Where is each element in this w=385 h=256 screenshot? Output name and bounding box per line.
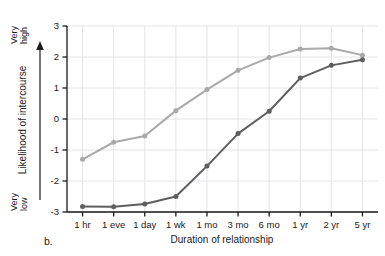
data-point-marker	[204, 164, 209, 169]
data-point-marker	[329, 46, 334, 51]
x-category-label: 1 yr	[292, 219, 308, 230]
x-category-label: 1 wk	[166, 219, 186, 230]
y-tick-label: 2	[54, 51, 59, 62]
y-axis-high-anchor-line1: Very	[9, 25, 19, 44]
y-axis-high-anchor-line2: high	[19, 27, 29, 44]
data-point-marker	[204, 87, 209, 92]
x-category-label: 1 mo	[196, 219, 217, 230]
data-point-marker	[80, 157, 85, 162]
data-point-marker	[173, 108, 178, 113]
data-point-marker	[267, 109, 272, 114]
y-tick-label: -2	[51, 175, 59, 186]
chart-container: 3210-1-2-3 1 hr1 eve1 day1 wk1 mo3 mo6 m…	[0, 0, 385, 256]
panel-label: b.	[44, 235, 53, 247]
x-category-label: 3 mo	[227, 219, 248, 230]
x-category-label: 1 day	[133, 219, 156, 230]
data-point-marker	[360, 57, 365, 62]
data-point-marker	[142, 201, 147, 206]
data-point-marker	[111, 204, 116, 209]
data-point-marker	[111, 140, 116, 145]
data-point-marker	[298, 46, 303, 51]
data-point-marker	[142, 134, 147, 139]
x-category-label: 1 eve	[102, 219, 125, 230]
y-axis-title: Likelihood of intercourse	[17, 65, 28, 174]
x-category-label: 5 yr	[355, 219, 371, 230]
y-tick-label: -3	[51, 206, 59, 217]
plot-background	[0, 0, 385, 256]
y-axis-low-anchor-line2: low	[19, 197, 29, 211]
data-point-marker	[329, 63, 334, 68]
x-category-label: 6 mo	[259, 219, 280, 230]
data-point-marker	[173, 194, 178, 199]
y-tick-label: 3	[54, 20, 59, 31]
y-tick-label: 0	[54, 113, 59, 124]
x-category-label: 2 yr	[323, 219, 339, 230]
data-point-marker	[267, 55, 272, 60]
x-category-label: 1 hr	[74, 219, 90, 230]
y-tick-label: 1	[54, 82, 59, 93]
likelihood-of-intercourse-line-chart: 3210-1-2-3 1 hr1 eve1 day1 wk1 mo3 mo6 m…	[0, 0, 385, 256]
data-point-marker	[360, 53, 365, 58]
x-axis-title: Duration of relationship	[171, 234, 274, 245]
data-point-marker	[298, 76, 303, 81]
y-axis-low-anchor-line1: Very	[9, 192, 19, 211]
data-point-marker	[236, 131, 241, 136]
y-tick-label: -1	[51, 144, 59, 155]
data-point-marker	[80, 204, 85, 209]
data-point-marker	[236, 68, 241, 73]
